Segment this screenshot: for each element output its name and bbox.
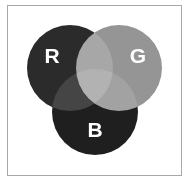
venn-label-r: R — [44, 44, 59, 67]
venn-label-g: G — [130, 44, 146, 67]
venn-diagram: R G B — [0, 0, 189, 187]
venn-label-b: B — [87, 118, 102, 141]
figure-root: R G B — [0, 0, 189, 187]
venn-circle-b[interactable] — [52, 69, 138, 155]
venn-groups: R G B — [27, 25, 162, 155]
